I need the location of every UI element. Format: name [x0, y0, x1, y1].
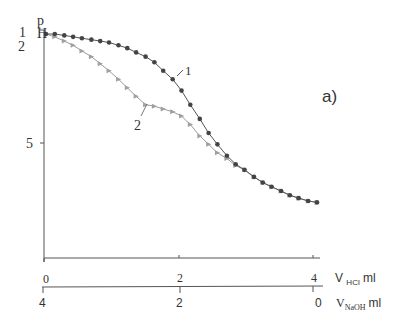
series-1-marker — [125, 46, 130, 51]
y-tick-label-5: 5 — [26, 137, 33, 151]
series-1-marker — [261, 180, 266, 185]
series-1-marker — [116, 43, 121, 48]
series-2-marker — [62, 39, 67, 44]
curve1-label: 1 — [185, 64, 192, 77]
series-1-line — [46, 34, 317, 202]
hcl-sub: HCl — [346, 278, 359, 287]
panel-label: a) — [322, 88, 337, 105]
hcl-tick-2: 2 — [177, 272, 183, 284]
series-1-marker — [152, 60, 157, 65]
naoh-tick-4: 4 — [39, 297, 46, 309]
series-1-marker — [225, 153, 230, 158]
naoh-tick-0: 0 — [315, 297, 322, 309]
ph-label-h: H — [37, 27, 47, 41]
series-1-marker — [296, 196, 301, 201]
series-1-marker — [197, 117, 202, 122]
series-1-marker — [71, 35, 76, 40]
naoh-unit: ml — [369, 296, 382, 310]
series-1-marker — [279, 189, 284, 194]
series-1-marker — [315, 200, 320, 205]
series-1-marker — [242, 168, 247, 173]
series-1-marker — [252, 175, 257, 180]
curve2-label: 2 — [134, 119, 141, 133]
hcl-tick-0: 0 — [43, 273, 49, 285]
series-1-marker — [107, 40, 112, 45]
y-label-1: 1 — [19, 26, 26, 40]
series-1-marker — [161, 68, 166, 73]
series-1-marker — [170, 77, 175, 82]
series-1-marker — [306, 199, 311, 204]
series-1-marker — [288, 193, 293, 198]
hcl-naoh-axis — [42, 286, 323, 287]
series-1-marker — [62, 33, 67, 38]
series-1-marker — [143, 54, 148, 59]
series-1-marker — [206, 131, 211, 136]
series-1-marker — [80, 36, 85, 41]
hcl-tick-4: 4 — [311, 272, 317, 284]
series-1-marker — [134, 50, 139, 55]
hcl-unit: ml — [363, 271, 376, 285]
naoh-tick-2: 2 — [176, 297, 183, 309]
series-1-marker — [98, 39, 103, 44]
series-1-marker — [53, 32, 58, 37]
series-2-line — [46, 34, 317, 202]
hcl-v: V — [335, 271, 343, 285]
hcl-axis-label: V HCl ml — [335, 272, 376, 287]
series-2-marker — [152, 104, 157, 109]
series-1-marker — [188, 102, 193, 107]
series-1-marker — [215, 142, 220, 147]
curve1-leader — [177, 70, 183, 76]
series-1-marker — [269, 185, 274, 190]
series-1-marker — [233, 162, 238, 167]
series-2-marker — [161, 106, 166, 111]
series-1-marker — [89, 37, 94, 42]
series-layer — [44, 32, 320, 205]
series-2-marker — [170, 109, 175, 114]
series-1-marker — [179, 88, 184, 93]
naoh-sub: NaOH — [345, 303, 366, 312]
naoh-v: V — [336, 296, 345, 310]
y-label-2: 2 — [18, 40, 25, 54]
naoh-axis-label: VNaOH ml — [336, 297, 381, 312]
